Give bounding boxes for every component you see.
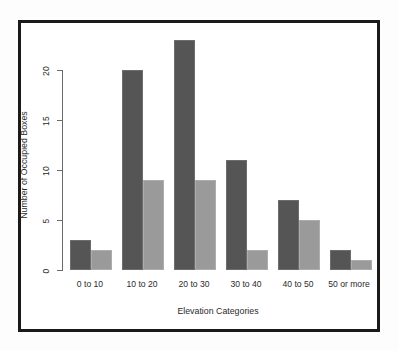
y-tick-label-5: 5 [41, 219, 51, 224]
bar-dark-3 [226, 160, 247, 270]
bar-light-1 [143, 180, 164, 270]
x-tick-label-3: 30 to 40 [218, 279, 274, 289]
bar-group-4 [274, 70, 322, 270]
bar-group-3 [222, 70, 270, 270]
bar-dark-5 [330, 250, 351, 270]
bars-layer [62, 70, 374, 270]
figure-canvas: 20 15 10 5 0 Number of Occupied Boxes El… [0, 0, 399, 351]
x-tick-label-5: 50 or more [318, 279, 380, 289]
bar-group-0 [66, 70, 114, 270]
plot-area: 20 15 10 5 0 Number of Occupied Boxes El… [0, 0, 399, 351]
bar-dark-4 [278, 200, 299, 270]
x-tick-label-0: 0 to 10 [62, 279, 118, 289]
bar-dark-1 [122, 70, 143, 270]
x-tick-label-2: 20 to 30 [166, 279, 222, 289]
y-tick-label-10: 10 [41, 166, 51, 176]
y-axis-title: Number of Occupied Boxes [19, 100, 29, 230]
y-tick-label-0: 0 [41, 269, 51, 274]
bar-dark-2 [174, 40, 195, 270]
bar-group-2 [170, 70, 218, 270]
x-axis-title: Elevation Categories [62, 306, 374, 316]
bar-group-5 [326, 70, 374, 270]
x-tick-label-1: 10 to 20 [114, 279, 170, 289]
bar-light-2 [195, 180, 216, 270]
bar-dark-0 [70, 240, 91, 270]
bar-light-3 [247, 250, 268, 270]
y-tick-label-15: 15 [41, 116, 51, 126]
bar-light-4 [299, 220, 320, 270]
y-tick-label-20: 20 [41, 66, 51, 76]
bar-light-5 [351, 260, 372, 270]
bar-group-1 [118, 70, 166, 270]
bar-light-0 [91, 250, 112, 270]
